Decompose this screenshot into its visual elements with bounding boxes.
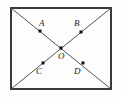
point-label-o: O (58, 52, 65, 61)
geometry-figure: A B O C D (0, 0, 121, 98)
point-marker-b (80, 31, 83, 34)
point-label-d: D (74, 67, 81, 76)
point-marker-d (82, 62, 85, 65)
diagram-canvas (0, 0, 121, 98)
point-label-a: A (39, 19, 45, 28)
point-marker-o (60, 47, 63, 50)
point-marker-c (42, 62, 45, 65)
point-label-c: C (36, 67, 42, 76)
point-label-b: B (74, 19, 80, 28)
point-marker-a (39, 30, 42, 33)
